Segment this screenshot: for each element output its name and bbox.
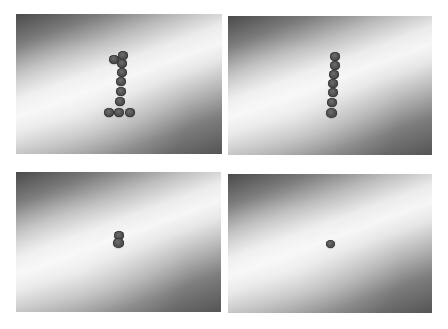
coin [329, 70, 339, 79]
coin [326, 240, 335, 248]
coin [330, 52, 340, 61]
photo-panel-bottom-right [228, 174, 432, 313]
photo-panel-top-right [228, 16, 432, 155]
coin [104, 108, 114, 117]
coin [327, 98, 337, 107]
coin [116, 77, 126, 86]
coin [116, 87, 126, 96]
coin [117, 59, 127, 68]
coin [326, 108, 337, 118]
coin [125, 108, 135, 117]
coin [330, 61, 340, 70]
coin [114, 108, 124, 117]
coin [115, 97, 125, 106]
coin [328, 88, 338, 97]
coin [328, 79, 338, 88]
coin [117, 68, 127, 77]
photo-panel-top-left [16, 14, 222, 154]
photo-panel-bottom-left [16, 172, 221, 312]
coin [113, 238, 124, 248]
